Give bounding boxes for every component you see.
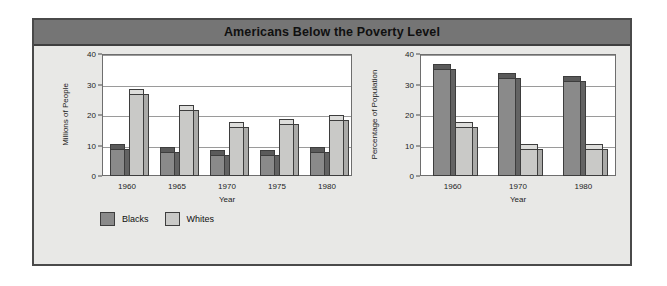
y-axis-tick-label: 30 [388, 80, 414, 89]
y-axis-title-right-text: Percentage of Population [371, 69, 380, 159]
y-axis-tick-mark [98, 54, 102, 55]
gridline [103, 86, 351, 87]
y-axis-tick-label: 20 [70, 111, 96, 120]
chart-legend: BlacksWhites [100, 212, 214, 226]
y-axis-tick-mark [416, 84, 420, 85]
panel-title-bar: Americans Below the Poverty Level [34, 20, 630, 46]
gridline [421, 147, 615, 148]
y-axis-tick-label: 40 [70, 50, 96, 59]
x-axis-tick-label: 1965 [168, 182, 186, 191]
x-axis-tick-label: 1975 [268, 182, 286, 191]
y-axis-tick-mark [98, 176, 102, 177]
y-axis-tick-mark [416, 145, 420, 146]
chart-panel: Americans Below the Poverty Level Millio… [32, 18, 632, 266]
x-axis-tick-label: 1960 [118, 182, 136, 191]
gridline [103, 116, 351, 117]
y-axis-tick-label: 40 [388, 50, 414, 59]
gridline [103, 147, 351, 148]
gridline [421, 86, 615, 87]
legend-swatch-whites [165, 212, 180, 226]
chart-millions-of-people: Millions of People Year 0102030401960196… [60, 46, 360, 266]
y-axis-tick-mark [98, 115, 102, 116]
y-axis-tick-mark [416, 54, 420, 55]
y-axis-tick-label: 0 [70, 172, 96, 181]
legend-swatch-blacks [100, 212, 115, 226]
legend-item-whites: Whites [165, 212, 215, 226]
gridline [421, 116, 615, 117]
x-axis-tick-label: 1980 [574, 182, 592, 191]
chart-percentage-of-population: Percentage of Population Year 0102030401… [374, 46, 624, 266]
y-axis-tick-mark [416, 176, 420, 177]
y-axis-tick-mark [98, 84, 102, 85]
y-axis-title-right: Percentage of Population [368, 46, 382, 182]
y-axis-tick-label: 30 [70, 80, 96, 89]
x-axis-title-right: Year [510, 195, 526, 204]
x-axis-tick-label: 1970 [218, 182, 236, 191]
y-axis-tick-label: 10 [388, 141, 414, 150]
plot-area-right [420, 54, 616, 176]
y-axis-tick-mark [98, 145, 102, 146]
y-axis-tick-label: 20 [388, 111, 414, 120]
x-axis-tick-label: 1970 [509, 182, 527, 191]
x-axis-tick-label: 1980 [318, 182, 336, 191]
y-axis-tick-mark [416, 115, 420, 116]
legend-item-blacks: Blacks [100, 212, 149, 226]
plot-area-left [102, 54, 352, 176]
gridline [421, 55, 615, 56]
legend-label-whites: Whites [187, 214, 215, 224]
charts-container: Millions of People Year 0102030401960196… [34, 46, 630, 266]
legend-label-blacks: Blacks [122, 214, 149, 224]
y-axis-tick-label: 0 [388, 172, 414, 181]
screenshot-root: Americans Below the Poverty Level Millio… [0, 0, 667, 286]
x-axis-title-left: Year [219, 195, 235, 204]
gridline [103, 55, 351, 56]
y-axis-tick-label: 10 [70, 141, 96, 150]
page-title: Americans Below the Poverty Level [224, 25, 440, 39]
y-axis-title-left-text: Millions of People [61, 83, 70, 146]
x-axis-tick-label: 1960 [444, 182, 462, 191]
